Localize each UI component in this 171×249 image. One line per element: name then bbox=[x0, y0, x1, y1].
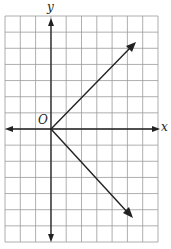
y-axis-label: y bbox=[47, 0, 54, 14]
coordinate-plane bbox=[0, 0, 171, 249]
lower-ray bbox=[51, 129, 129, 214]
y-axis-down-arrow-icon bbox=[48, 234, 54, 242]
y-axis-up-arrow-icon bbox=[48, 18, 54, 26]
x-axis-left-arrow-icon bbox=[5, 126, 13, 132]
x-axis-label: x bbox=[161, 120, 168, 134]
plotted-rays bbox=[51, 42, 136, 218]
x-axis-right-arrow-icon bbox=[152, 126, 160, 132]
upper-ray bbox=[51, 46, 132, 129]
axes bbox=[5, 18, 160, 242]
origin-label: O bbox=[38, 113, 48, 127]
